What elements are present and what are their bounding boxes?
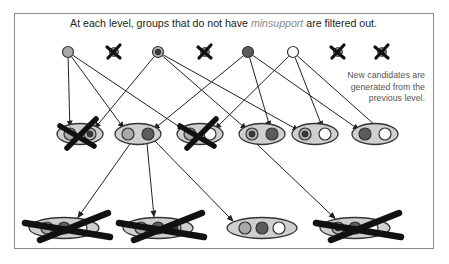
item-node-A [63, 47, 74, 58]
item-dot-icon [87, 131, 93, 137]
item-dot-icon [155, 49, 161, 55]
group-node-E2 [115, 124, 161, 145]
item-white-circle [288, 47, 299, 58]
item-light-gray-circle [122, 128, 134, 140]
item-dot-icon [302, 131, 308, 137]
item-node-D [288, 47, 299, 58]
item-dark-gray-circle [359, 128, 371, 140]
item-dark-gray-circle [243, 47, 254, 58]
title-emphasis-minsupport: minsupport [251, 17, 303, 29]
item-light-gray-circle [239, 222, 251, 234]
title-suffix: are filtered out. [303, 17, 377, 29]
item-white-circle [319, 128, 331, 140]
side-note: New candidates are generated from the pr… [347, 70, 425, 105]
group-node-E4 [239, 124, 285, 145]
item-node-B [153, 47, 164, 58]
item-light-gray-circle [63, 47, 74, 58]
side-note-line-1: New candidates are [347, 70, 425, 82]
item-dark-gray-circle [142, 128, 154, 140]
title-prefix: At each level, groups that do not have [70, 17, 251, 29]
item-node-C [243, 47, 254, 58]
item-dark-gray-circle [256, 222, 268, 234]
group-node-F3 [227, 218, 297, 239]
item-white-circle [273, 222, 285, 234]
diagram-title: At each level, groups that do not have m… [14, 17, 433, 29]
side-note-line-2: generated from the [347, 82, 425, 94]
side-note-line-3: previous level. [347, 93, 425, 105]
item-dark-gray-circle [266, 128, 278, 140]
item-dot-icon [249, 131, 255, 137]
group-node-E6 [352, 124, 398, 145]
item-white-circle [379, 128, 391, 140]
group-node-E5 [292, 124, 338, 145]
apriori-diagram [0, 0, 449, 264]
